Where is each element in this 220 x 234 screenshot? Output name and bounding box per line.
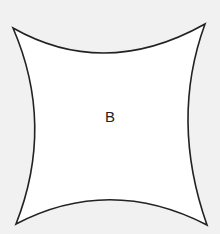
diagram-canvas: B (0, 0, 220, 234)
shape-label: B (100, 108, 120, 125)
